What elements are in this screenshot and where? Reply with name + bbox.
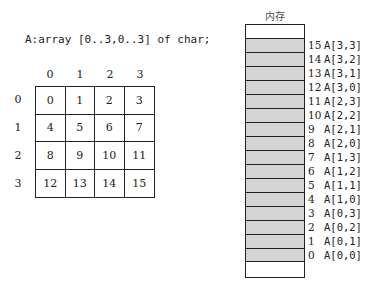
memory-slot — [246, 108, 304, 122]
grid-cell: 3 — [125, 87, 155, 115]
memory-index: 9 — [308, 122, 324, 136]
grid-cell: 12 — [36, 170, 66, 198]
grid-cell: 2 — [95, 87, 125, 115]
memory-index: 7 — [308, 150, 324, 164]
memory-label: 0A[0,0] — [308, 248, 362, 262]
memory-label: 15A[3,3] — [308, 38, 362, 52]
grid-cell: 10 — [95, 142, 125, 170]
memory-slot — [246, 206, 304, 220]
memory-index: 0 — [308, 248, 324, 262]
memory-element: A[2,3] — [324, 95, 362, 107]
column-header: 2 — [95, 68, 125, 81]
memory-title: 内存 — [245, 8, 305, 23]
memory-slot — [246, 94, 304, 108]
memory-slot — [246, 80, 304, 94]
memory-index: 1 — [308, 234, 324, 248]
memory-slot — [246, 178, 304, 192]
memory-index: 8 — [308, 136, 324, 150]
memory-element: A[0,3] — [324, 207, 362, 219]
memory-index: 3 — [308, 206, 324, 220]
memory-label: 9A[2,1] — [308, 122, 362, 136]
memory-label: 6A[1,2] — [308, 164, 362, 178]
memory-index: 12 — [308, 80, 324, 94]
memory-slot — [246, 248, 304, 262]
memory-slot — [246, 66, 304, 80]
memory-index: 10 — [308, 108, 324, 122]
array-declaration: A:array [0..3,0..3] of char; — [25, 33, 210, 46]
memory-label: 7A[1,3] — [308, 150, 362, 164]
memory-element: A[3,1] — [324, 67, 362, 79]
memory-label: 10A[2,2] — [308, 108, 362, 122]
memory-slot — [246, 52, 304, 66]
grid-cell: 13 — [66, 170, 96, 198]
memory-slot — [246, 164, 304, 178]
memory-index: 14 — [308, 52, 324, 66]
grid-cell: 9 — [66, 142, 96, 170]
memory-index: 6 — [308, 164, 324, 178]
row-header: 3 — [10, 177, 26, 190]
memory-label: 14A[3,2] — [308, 52, 362, 66]
column-header: 1 — [65, 68, 95, 81]
grid-cell: 11 — [125, 142, 155, 170]
grid-cell: 6 — [95, 115, 125, 143]
memory-slot — [246, 220, 304, 234]
memory-index: 15 — [308, 38, 324, 52]
memory-label: 2A[0,2] — [308, 220, 362, 234]
memory-block — [245, 24, 305, 278]
memory-label: 8A[2,0] — [308, 136, 362, 150]
memory-slot — [246, 150, 304, 164]
memory-element: A[1,0] — [324, 193, 362, 205]
memory-element: A[2,2] — [324, 109, 362, 121]
memory-slot — [246, 38, 304, 52]
grid-cell: 5 — [66, 115, 96, 143]
memory-index: 11 — [308, 94, 324, 108]
memory-slot — [246, 122, 304, 136]
grid-cell: 15 — [125, 170, 155, 198]
memory-label: 11A[2,3] — [308, 94, 362, 108]
memory-element: A[3,0] — [324, 81, 362, 93]
grid-cell: 0 — [36, 87, 66, 115]
column-header: 3 — [125, 68, 155, 81]
memory-element: A[1,2] — [324, 165, 362, 177]
grid-cell: 4 — [36, 115, 66, 143]
memory-element: A[3,3] — [324, 39, 362, 51]
memory-index: 2 — [308, 220, 324, 234]
memory-element: A[1,1] — [324, 179, 362, 191]
memory-label: 13A[3,1] — [308, 66, 362, 80]
memory-element: A[2,0] — [324, 137, 362, 149]
memory-slot — [246, 136, 304, 150]
memory-element: A[3,2] — [324, 53, 362, 65]
column-header: 0 — [35, 68, 65, 81]
memory-index: 4 — [308, 192, 324, 206]
memory-label: 1A[0,1] — [308, 234, 362, 248]
memory-label: 3A[0,3] — [308, 206, 362, 220]
memory-element: A[0,0] — [324, 249, 362, 261]
memory-index: 13 — [308, 66, 324, 80]
memory-element: A[2,1] — [324, 123, 362, 135]
memory-label: 4A[1,0] — [308, 192, 362, 206]
memory-label: 12A[3,0] — [308, 80, 362, 94]
memory-label: 5A[1,1] — [308, 178, 362, 192]
memory-element: A[1,3] — [324, 151, 362, 163]
array-grid: 0 1 2 3 4 5 6 7 8 9 10 11 12 13 14 15 — [35, 86, 155, 198]
grid-cell: 14 — [95, 170, 125, 198]
memory-index: 5 — [308, 178, 324, 192]
memory-slot — [246, 234, 304, 248]
memory-element: A[0,2] — [324, 221, 362, 233]
row-header: 0 — [10, 93, 26, 106]
memory-slot — [246, 192, 304, 206]
memory-element: A[0,1] — [324, 235, 362, 247]
row-header: 2 — [10, 149, 26, 162]
grid-cell: 1 — [66, 87, 96, 115]
grid-cell: 8 — [36, 142, 66, 170]
grid-cell: 7 — [125, 115, 155, 143]
row-header: 1 — [10, 121, 26, 134]
